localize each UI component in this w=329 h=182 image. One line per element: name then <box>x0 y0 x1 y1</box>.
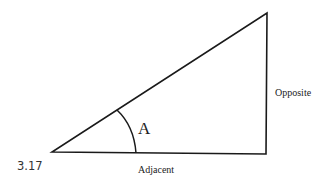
right-triangle-diagram: A Opposite Adjacent 3.17 <box>0 0 329 182</box>
opposite-label: Opposite <box>275 87 312 98</box>
adjacent-label: Adjacent <box>138 164 174 175</box>
figure-number: 3.17 <box>17 159 43 173</box>
triangle <box>52 13 267 154</box>
angle-label: A <box>138 119 151 138</box>
angle-arc <box>117 110 136 153</box>
